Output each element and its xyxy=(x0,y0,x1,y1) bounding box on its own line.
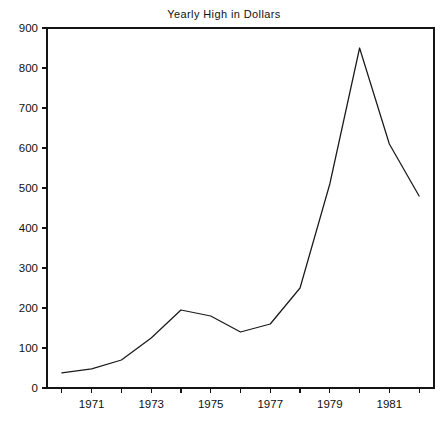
y-axis-tick-label: 800 xyxy=(19,62,38,74)
data-series-line xyxy=(62,48,419,373)
y-axis-tick-label: 300 xyxy=(19,262,38,274)
y-axis-tick-marks xyxy=(42,28,47,388)
y-axis-tick-label: 600 xyxy=(19,142,38,154)
line-chart-plot: 0100200300400500600700800900 19711973197… xyxy=(0,0,448,432)
y-axis-tick-label: 500 xyxy=(19,182,38,194)
plot-axis-frame xyxy=(47,28,434,388)
y-axis-tick-label: 100 xyxy=(19,342,38,354)
x-axis-tick-label: 1977 xyxy=(257,398,283,410)
x-axis-tick-label: 1973 xyxy=(138,398,164,410)
chart-container: Yearly High in Dollars 01002003004005006… xyxy=(0,0,448,432)
y-axis-tick-label: 700 xyxy=(19,102,38,114)
x-axis-tick-label: 1979 xyxy=(317,398,343,410)
x-axis-tick-label: 1971 xyxy=(79,398,105,410)
x-axis-tick-marks xyxy=(62,388,419,393)
x-axis-tick-labels: 197119731975197719791981 xyxy=(79,398,402,410)
y-axis-tick-label: 0 xyxy=(32,382,38,394)
y-axis-tick-labels: 0100200300400500600700800900 xyxy=(19,22,38,394)
x-axis-tick-label: 1981 xyxy=(377,398,403,410)
y-axis-tick-label: 200 xyxy=(19,302,38,314)
y-axis-tick-label: 900 xyxy=(19,22,38,34)
x-axis-tick-label: 1975 xyxy=(198,398,224,410)
y-axis-tick-label: 400 xyxy=(19,222,38,234)
